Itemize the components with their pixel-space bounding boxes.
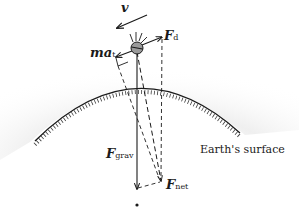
orbital-forces-diagram xyxy=(0,0,299,219)
dashed-grav-to-net xyxy=(138,182,160,188)
velocity-label: v xyxy=(121,0,129,15)
earth-center-dot xyxy=(135,203,138,206)
gravity-force-label: Fgrav xyxy=(106,146,133,161)
earth-shading xyxy=(0,38,299,160)
net-force-label: Fnet xyxy=(166,177,188,192)
tangential-force-label: mat xyxy=(90,45,115,60)
drag-force-label: Fd xyxy=(164,28,178,43)
earth-surface-label: Earth's surface xyxy=(200,143,285,156)
velocity-arrow xyxy=(117,15,147,28)
